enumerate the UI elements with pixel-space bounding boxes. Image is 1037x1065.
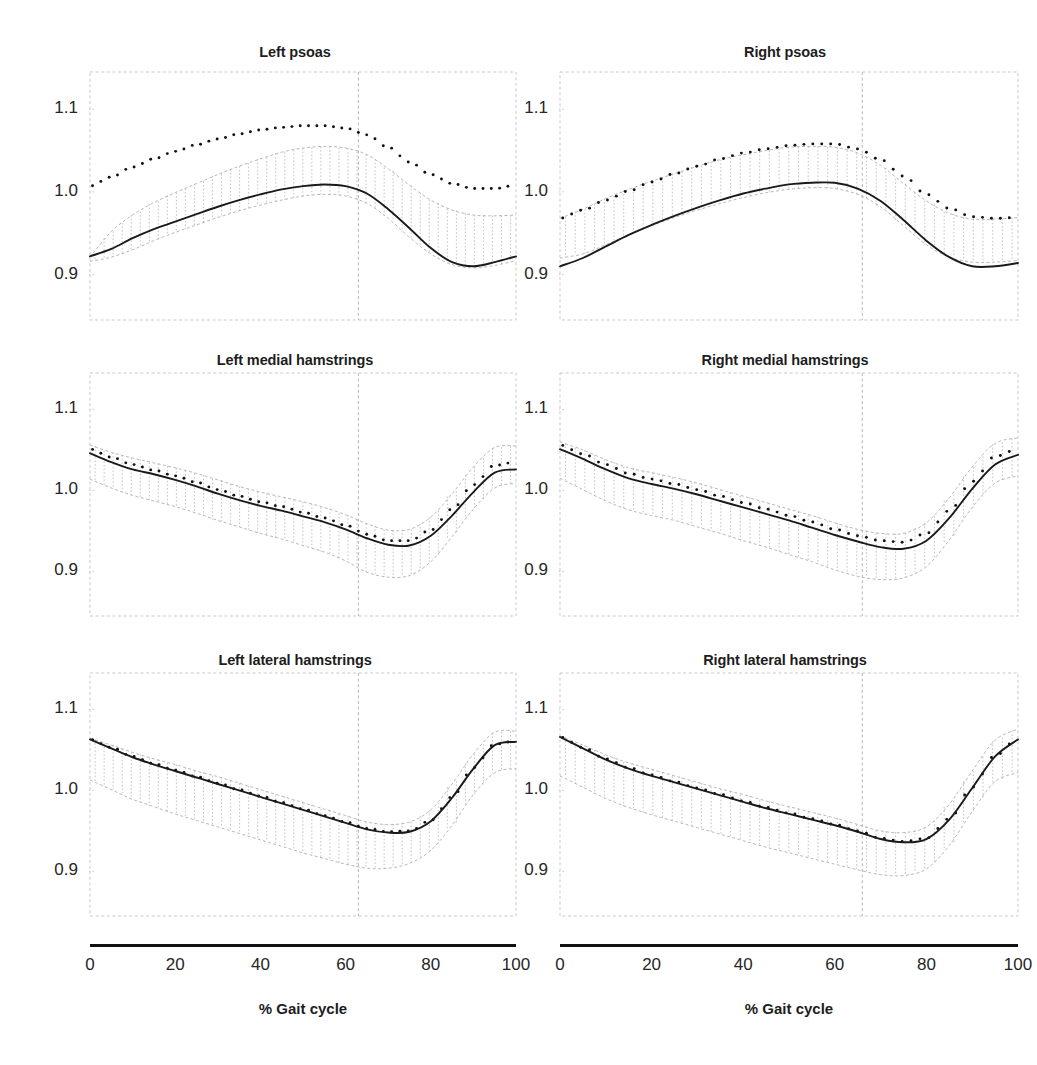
plot-area-right-psoas (559, 71, 1019, 321)
y-tick-label: 1.1 (26, 398, 78, 418)
y-tick-label: 0.9 (496, 264, 548, 284)
x-tick-label: 40 (230, 955, 290, 975)
x-tick-label: 60 (316, 955, 376, 975)
y-tick-label: 1.1 (496, 398, 548, 418)
y-tick-label: 1.1 (496, 98, 548, 118)
panel-title-left-medial-hamstrings: Left medial hamstrings (60, 352, 530, 368)
x-tick-label: 20 (145, 955, 205, 975)
plot-area-left-medial-hamstrings (89, 372, 517, 617)
y-tick-label: 0.9 (26, 860, 78, 880)
x-tick-label: 0 (530, 955, 590, 975)
plot-area-right-lateral-hamstrings (559, 672, 1019, 917)
y-tick-label: 1.0 (26, 181, 78, 201)
x-tick-label: 20 (622, 955, 682, 975)
y-tick-label: 0.9 (26, 560, 78, 580)
x-axis-title: % Gait cycle (90, 1000, 516, 1017)
plot-area-left-lateral-hamstrings (89, 672, 517, 917)
panel-title-right-medial-hamstrings: Right medial hamstrings (540, 352, 1030, 368)
y-tick-label: 0.9 (26, 264, 78, 284)
y-tick-label: 0.9 (496, 860, 548, 880)
plot-area-left-psoas (89, 71, 517, 321)
x-tick-label: 60 (805, 955, 865, 975)
y-tick-label: 0.9 (496, 560, 548, 580)
panel-title-right-psoas: Right psoas (540, 44, 1030, 60)
y-tick-label: 1.0 (496, 779, 548, 799)
x-tick-label: 80 (401, 955, 461, 975)
x-axis-title: % Gait cycle (560, 1000, 1018, 1017)
caption-remnant (28, 1052, 458, 1063)
y-tick-label: 1.0 (26, 779, 78, 799)
plot-area-right-medial-hamstrings (559, 372, 1019, 617)
x-tick-label: 80 (896, 955, 956, 975)
y-tick-label: 1.0 (26, 479, 78, 499)
y-tick-label: 1.1 (496, 698, 548, 718)
x-axis-bar (90, 944, 516, 947)
panel-title-left-lateral-hamstrings: Left lateral hamstrings (60, 652, 530, 668)
y-tick-label: 1.1 (26, 698, 78, 718)
y-tick-label: 1.0 (496, 479, 548, 499)
y-tick-label: 1.1 (26, 98, 78, 118)
x-tick-label: 100 (988, 955, 1037, 975)
x-axis-bar (560, 944, 1018, 947)
panel-title-right-lateral-hamstrings: Right lateral hamstrings (540, 652, 1030, 668)
y-tick-label: 1.0 (496, 181, 548, 201)
x-tick-label: 40 (713, 955, 773, 975)
panel-title-left-psoas: Left psoas (60, 44, 530, 60)
x-tick-label: 0 (60, 955, 120, 975)
